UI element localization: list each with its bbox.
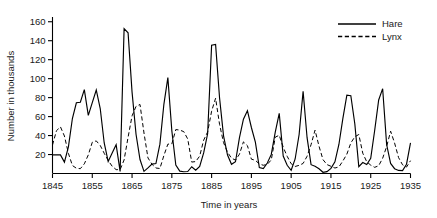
- legend-label-hare: Hare: [382, 18, 403, 29]
- x-axis-title: Time in years: [201, 199, 258, 210]
- legend-label-lynx: Lynx: [382, 31, 402, 42]
- hare-lynx-population-chart: Number in thousands Time in years 204060…: [0, 0, 437, 218]
- x-tick-label: 1855: [82, 180, 103, 191]
- series-line-hare: [53, 29, 411, 173]
- chart-legend: HareLynx: [338, 18, 403, 42]
- x-tick-label: 1885: [201, 180, 222, 191]
- y-tick-label: 140: [30, 35, 46, 46]
- x-tick-label: 1915: [320, 180, 341, 191]
- x-axis-ticks: 1845185518651875188518951905191519251935: [42, 174, 421, 192]
- x-tick-label: 1895: [241, 180, 262, 191]
- data-series-group: [53, 29, 411, 173]
- y-tick-label: 160: [30, 16, 46, 27]
- y-axis-title: Number in thousands: [5, 51, 16, 142]
- x-tick-label: 1935: [400, 180, 421, 191]
- y-tick-label: 80: [35, 92, 46, 103]
- y-tick-label: 60: [35, 111, 46, 122]
- y-axis-ticks: 20406080100120140160: [30, 16, 53, 160]
- chart-canvas: Number in thousands Time in years 204060…: [0, 0, 437, 218]
- y-tick-label: 40: [35, 130, 46, 141]
- x-tick-label: 1865: [121, 180, 142, 191]
- x-tick-label: 1925: [360, 180, 381, 191]
- x-tick-label: 1875: [161, 180, 182, 191]
- y-tick-label: 120: [30, 54, 46, 65]
- y-tick-label: 20: [35, 149, 46, 160]
- series-line-lynx: [53, 98, 411, 169]
- x-tick-label: 1845: [42, 180, 63, 191]
- x-tick-label: 1905: [281, 180, 302, 191]
- y-tick-label: 100: [30, 73, 46, 84]
